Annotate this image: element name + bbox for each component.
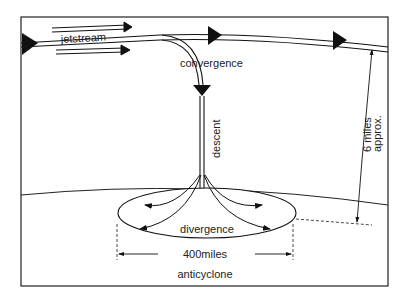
divergence-label: divergence bbox=[180, 223, 234, 235]
convergence-arrowhead-icon bbox=[193, 85, 211, 96]
jetstream-label: jetstream bbox=[59, 31, 106, 45]
descent-label: descent bbox=[210, 119, 222, 158]
height-label-line2: approx. bbox=[371, 115, 383, 152]
jet-arrowhead-icon bbox=[208, 26, 222, 45]
width-label: 400miles bbox=[183, 248, 228, 260]
anticyclone-label: anticyclone bbox=[177, 268, 232, 280]
anticyclone-diagram: jetstream convergence descent divergence… bbox=[0, 0, 409, 304]
convergence-label: convergence bbox=[180, 57, 243, 69]
jet-arrowhead-icon bbox=[22, 33, 38, 55]
